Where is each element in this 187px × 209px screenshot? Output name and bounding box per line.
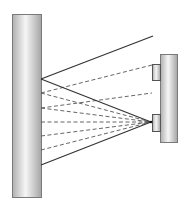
right-panel: [161, 55, 178, 143]
dashed-ray: [41, 122, 151, 150]
solid-rays: [41, 36, 153, 165]
solid-ray: [41, 79, 151, 122]
lower-tab: [153, 115, 161, 132]
dashed-rays: [41, 65, 152, 150]
tabs-group: [153, 65, 161, 132]
upper-tab: [153, 65, 161, 81]
left-panel: [13, 15, 42, 198]
ray-diagram: [0, 0, 187, 209]
focal-point: [150, 121, 153, 124]
dashed-ray: [41, 65, 152, 93]
diagram-canvas: [0, 0, 187, 209]
solid-ray: [41, 36, 153, 79]
dashed-ray: [41, 93, 151, 122]
solid-ray: [41, 122, 151, 165]
